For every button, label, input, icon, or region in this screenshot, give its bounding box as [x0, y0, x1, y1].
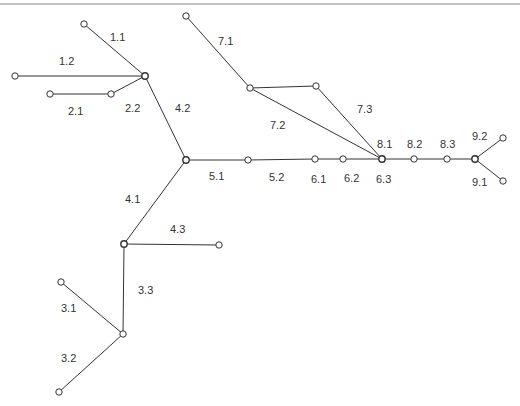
node-n83: [444, 156, 450, 162]
edge-label-7-3: 7.3: [357, 103, 372, 115]
node-n43: [216, 242, 222, 248]
edge-label-3-3: 3.3: [138, 284, 153, 296]
edge-label-3-1: 3.1: [61, 302, 76, 314]
edge-label-3-2: 3.2: [61, 352, 76, 364]
node-n31: [58, 279, 64, 285]
node-n32: [56, 389, 62, 395]
edge-n71-F: [186, 16, 250, 88]
edge-label-8-2: 8.2: [407, 138, 422, 150]
edge-label-6-2: 6.2: [344, 172, 359, 184]
node-B: [183, 157, 189, 163]
node-G: [120, 331, 126, 337]
edge-label-1-1: 1.1: [110, 31, 125, 43]
node-n91: [500, 178, 506, 184]
edge-label-4-3: 4.3: [170, 223, 185, 235]
edge-F-n73: [250, 86, 316, 88]
edge-label-7-2: 7.2: [270, 119, 285, 131]
edge-label-6-1: 6.1: [311, 173, 326, 185]
node-n92: [500, 135, 506, 141]
edge-label-2-2: 2.2: [125, 102, 140, 114]
node-n11: [81, 21, 87, 27]
node-n61: [312, 156, 318, 162]
node-D: [379, 156, 385, 162]
edge-label-1-2: 1.2: [59, 55, 74, 67]
node-E: [472, 156, 478, 162]
edge-label-5-1: 5.1: [209, 170, 224, 182]
node-n21: [47, 91, 53, 97]
node-F: [247, 85, 253, 91]
edge-label-8-1: 8.1: [377, 138, 392, 150]
edges-group: [15, 16, 503, 392]
edge-label-4-2: 4.2: [175, 102, 190, 114]
node-C: [121, 241, 127, 247]
edge-label-2-1: 2.1: [68, 105, 83, 117]
edge-label-5-2: 5.2: [269, 171, 284, 183]
edge-label-7-1: 7.1: [218, 35, 233, 47]
edge-n22-A: [111, 76, 145, 94]
edge-label-8-3: 8.3: [440, 138, 455, 150]
node-n62: [340, 156, 346, 162]
edge-label-4-1: 4.1: [125, 193, 140, 205]
node-n12: [12, 73, 18, 79]
edge-label-9-2: 9.2: [472, 130, 487, 142]
edge-A-B: [145, 76, 186, 160]
node-n71: [183, 13, 189, 19]
node-n22: [108, 91, 114, 97]
edge-C-G: [123, 244, 124, 334]
edge-label-9-1: 9.1: [472, 176, 487, 188]
edge-n73-D: [316, 86, 382, 159]
edge-n51-n61: [248, 159, 315, 160]
node-A: [142, 73, 148, 79]
node-n73: [313, 83, 319, 89]
node-n51: [245, 157, 251, 163]
node-n82: [411, 156, 417, 162]
edge-label-6-3: 6.3: [376, 173, 391, 185]
network-diagram: 1.1 1.2 2.1 2.2 4.2 7.1 7.2 7.3 5.1 5.2 …: [0, 0, 520, 406]
edge-C-n43: [124, 244, 219, 245]
nodes-group: [12, 13, 506, 395]
